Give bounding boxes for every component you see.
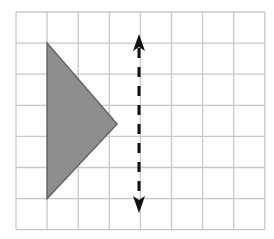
dashed-double-arrow xyxy=(133,34,145,213)
diagram-svg xyxy=(0,0,274,239)
triangle-shape xyxy=(47,43,117,199)
reflection-diagram: Triangle on a square grid with a vertica… xyxy=(0,0,274,239)
